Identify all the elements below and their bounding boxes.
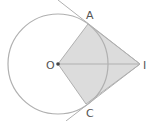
label-A: A [86, 9, 94, 22]
label-O: O [46, 59, 55, 72]
point-O [56, 62, 60, 66]
label-I: I [143, 59, 146, 72]
geometry-diagram: O A C I [0, 0, 147, 121]
label-C: C [86, 107, 94, 120]
